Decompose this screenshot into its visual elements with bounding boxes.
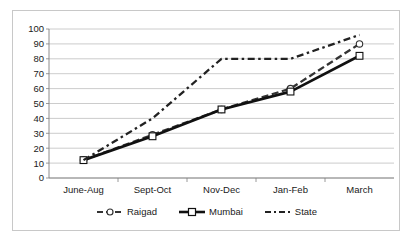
x-axis-category-label: Jan-Feb xyxy=(273,184,308,195)
x-axis-category-label: Nov-Dec xyxy=(203,184,240,195)
y-axis-tick-label: 70 xyxy=(33,68,44,79)
legend-swatch-raigad-icon xyxy=(97,207,123,217)
chart-frame: 0102030405060708090100June-AugSept-OctNo… xyxy=(12,10,400,231)
data-point-marker-mumbai xyxy=(218,106,225,113)
legend-swatch-mumbai-icon xyxy=(179,207,205,217)
y-axis-tick-label: 100 xyxy=(28,23,44,34)
legend-item-mumbai[interactable]: Mumbai xyxy=(179,207,243,217)
legend-swatch-state-icon xyxy=(265,207,291,217)
series-line-state xyxy=(84,35,360,160)
y-axis-tick-label: 50 xyxy=(33,98,44,109)
data-point-marker-raigad xyxy=(356,41,362,47)
y-axis-tick-label: 30 xyxy=(33,128,44,139)
legend-label-state: State xyxy=(295,207,317,217)
data-point-marker-mumbai xyxy=(287,88,294,95)
legend-label-raigad: Raigad xyxy=(127,207,157,217)
legend-item-raigad[interactable]: Raigad xyxy=(97,207,157,217)
legend-label-mumbai: Mumbai xyxy=(209,207,243,217)
data-point-marker-mumbai xyxy=(356,52,363,59)
line-chart-svg: 0102030405060708090100June-AugSept-OctNo… xyxy=(13,11,401,232)
y-axis-tick-label: 20 xyxy=(33,143,44,154)
x-axis-category-label: Sept-Oct xyxy=(134,184,172,195)
x-axis-category-label: June-Aug xyxy=(63,184,104,195)
chart-legend: Raigad Mumbai State xyxy=(13,201,401,223)
data-point-marker-mumbai xyxy=(149,133,156,140)
x-axis-category-label: March xyxy=(346,184,372,195)
y-axis-tick-label: 60 xyxy=(33,83,44,94)
series-line-raigad xyxy=(84,44,360,160)
y-axis-tick-label: 10 xyxy=(33,158,44,169)
plot-area: 0102030405060708090100June-AugSept-OctNo… xyxy=(13,11,401,232)
y-axis-tick-label: 90 xyxy=(33,38,44,49)
y-axis-tick-label: 80 xyxy=(33,53,44,64)
y-axis-tick-label: 0 xyxy=(39,172,44,183)
legend-item-state[interactable]: State xyxy=(265,207,317,217)
y-axis-tick-label: 40 xyxy=(33,113,44,124)
